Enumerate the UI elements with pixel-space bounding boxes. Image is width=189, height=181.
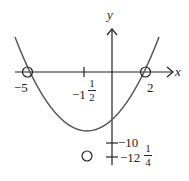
y-label-neg10: −10 (118, 136, 138, 149)
y-label-frac-num: 1 (143, 143, 153, 154)
y-label-neg12-whole: −12 (120, 151, 140, 164)
x-label-frac-num: 1 (87, 78, 97, 89)
x-label-2: 2 (147, 81, 154, 94)
y-axis-label: y (107, 8, 113, 21)
vertex-marker (82, 151, 92, 161)
x-axis-label: x (175, 65, 181, 78)
y-label-frac-den: 4 (143, 157, 153, 168)
x-label-neg1half-whole: −1 (72, 88, 86, 101)
parabola-graph: y x −5 −1 1 2 2 −10 −12 1 4 (0, 0, 189, 181)
x-label-frac-den: 2 (87, 92, 97, 103)
x-label-neg5: −5 (14, 81, 28, 94)
